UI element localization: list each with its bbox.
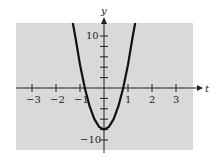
y-tick-label-top: 10: [86, 30, 99, 41]
x-tick-label: −3: [26, 94, 41, 105]
y-axis-arrow-icon: [101, 17, 107, 24]
x-axis-arrow-icon: [197, 85, 203, 91]
x-tick-label: 2: [149, 94, 155, 105]
chart: t y −3 −2 −1 1 2 3 10 −10: [0, 0, 217, 165]
x-tick-label: 3: [173, 94, 179, 105]
x-tick-label: 1: [125, 94, 131, 105]
y-tick-label-bottom: −10: [80, 134, 101, 145]
x-tick-label: −2: [50, 94, 65, 105]
x-axis-label: t: [205, 83, 210, 94]
y-axis-label: y: [100, 5, 107, 16]
